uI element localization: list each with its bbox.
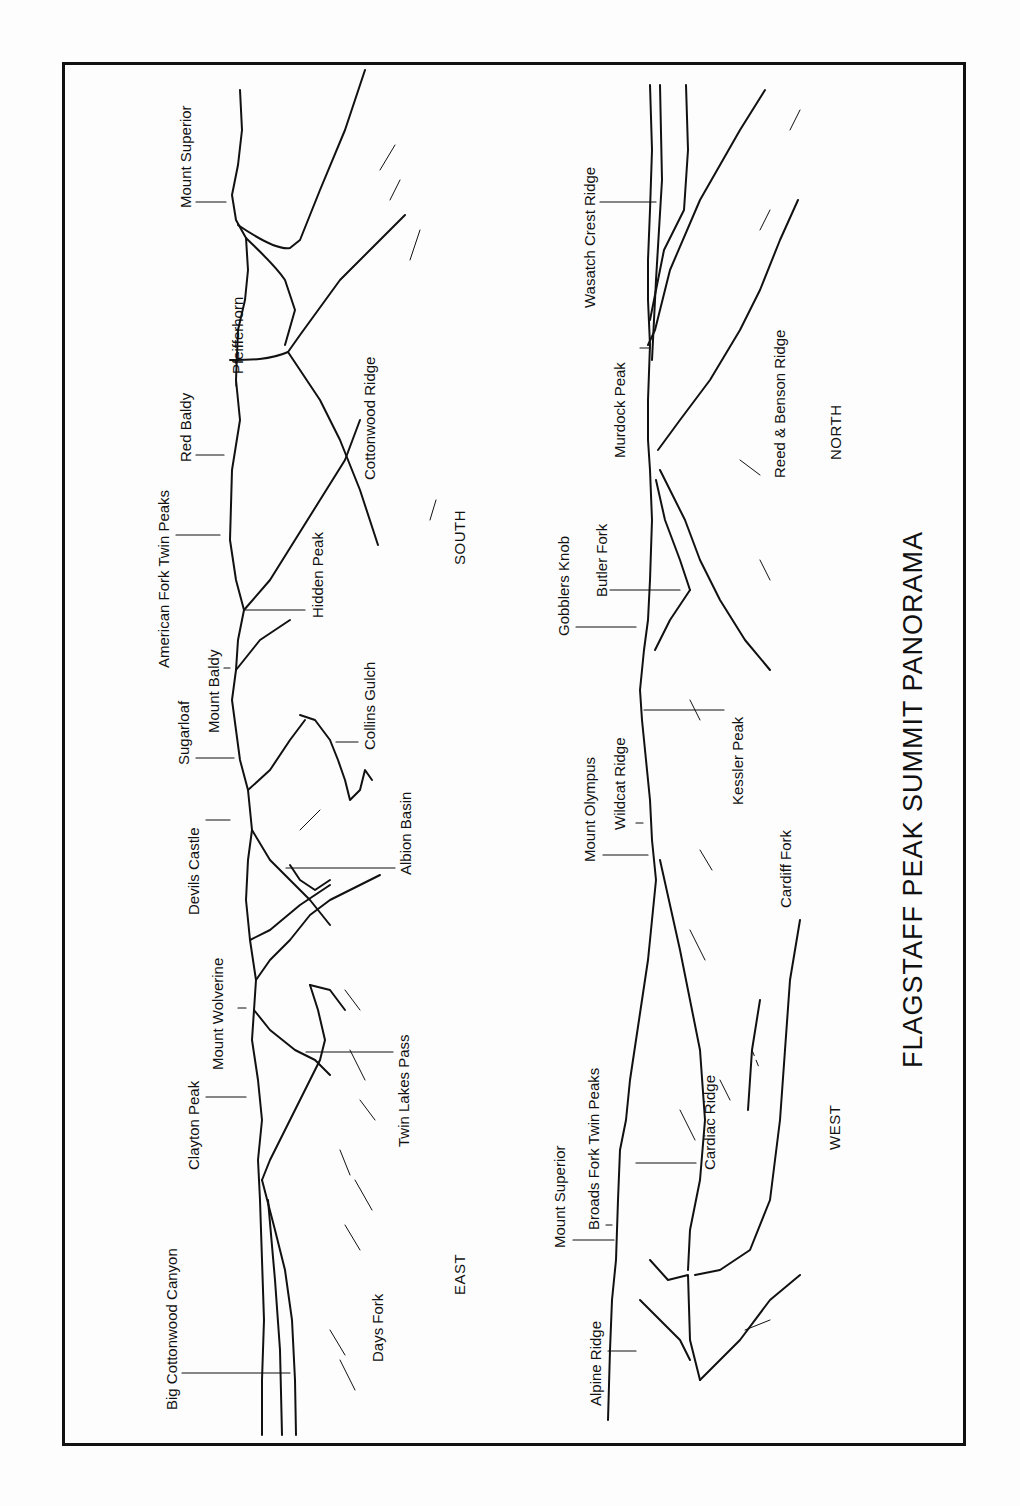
label-mount-olympus: Mount Olympus [582,757,597,862]
label-kessler-peak: Kessler Peak [730,717,745,805]
label-clayton-peak: Clayton Peak [186,1081,201,1170]
label-big-cottonwood-canyon: Big Cottonwood Canyon [164,1248,179,1410]
label-alpine-ridge: Alpine Ridge [588,1321,603,1406]
label-broads-fork-twin-peaks: Broads Fork Twin Peaks [586,1068,601,1230]
label-red-baldy: Red Baldy [178,393,193,462]
label-hidden-peak: Hidden Peak [310,532,325,618]
label-mount-wolverine: Mount Wolverine [210,958,225,1070]
label-albion-basin: Albion Basin [398,792,413,875]
leader-lines [176,202,724,1373]
label-mount-baldy: Mount Baldy [206,650,221,733]
label-gobblers-knob: Gobblers Knob [556,536,571,636]
label-sugarloaf: Sugarloaf [176,701,191,765]
direction-north: NORTH [828,404,843,460]
bottom-skyline [608,85,800,1420]
label-mount-superior-east: Mount Superior [178,105,193,208]
direction-east: EAST [452,1254,467,1295]
label-wildcat-ridge: Wildcat Ridge [612,737,627,830]
panorama-drawing [0,0,1020,1506]
label-american-fork-twin-peaks: American Fork Twin Peaks [156,490,171,668]
label-days-fork: Days Fork [370,1294,385,1362]
label-twin-lakes-pass: Twin Lakes Pass [396,1034,411,1147]
label-butler-fork: Butler Fork [594,524,609,597]
top-detail-strokes [300,145,436,1390]
label-pfeifferhorn: Pfeifferhorn [230,297,245,374]
top-skyline [230,70,405,1435]
label-murdock-peak: Murdock Peak [612,362,627,458]
panorama-page: Mount Superior Pfeifferhorn Red Baldy Co… [0,0,1020,1506]
label-wasatch-crest-ridge: Wasatch Crest Ridge [582,167,597,308]
direction-south: SOUTH [452,510,467,565]
label-cardiff-fork: Cardiff Fork [778,830,793,908]
label-devils-castle: Devils Castle [186,827,201,915]
panorama-title: FLAGSTAFF PEAK SUMMIT PANORAMA [900,531,927,1068]
label-cardiac-ridge: Cardiac Ridge [702,1075,717,1170]
label-collins-gulch: Collins Gulch [362,662,377,750]
label-reed-benson-ridge: Reed & Benson Ridge [772,330,787,478]
direction-west: WEST [827,1105,842,1150]
label-cottonwood-ridge: Cottonwood Ridge [362,357,377,480]
label-mount-superior-west: Mount Superior [552,1145,567,1248]
